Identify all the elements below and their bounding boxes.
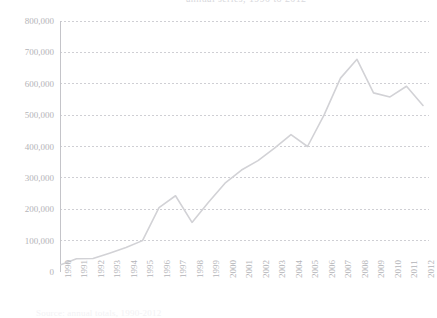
clipped-title-strip: annual series, 1990 to 2012	[0, 0, 437, 7]
y-axis-tick-label: 100,000	[0, 237, 54, 246]
y-axis-tick-label: 400,000	[0, 143, 54, 152]
x-axis-tick-label: 1992	[97, 238, 106, 278]
x-axis-tick-label: 1997	[179, 238, 188, 278]
clipped-title-text: annual series, 1990 to 2012	[186, 0, 307, 4]
x-axis-tick-label: 1991	[80, 238, 89, 278]
x-axis-tick-label: 1995	[146, 238, 155, 278]
x-axis-tick-label: 1998	[196, 238, 205, 278]
x-axis-tick-label: 2009	[377, 238, 386, 278]
x-axis-tick-label: 2007	[344, 238, 353, 278]
y-axis-tick-label: 600,000	[0, 80, 54, 89]
x-axis-tick-label: 2010	[394, 238, 403, 278]
line-chart-canvas	[60, 21, 429, 272]
x-axis-tick-label: 2005	[311, 238, 320, 278]
x-axis-tick-label: 2001	[245, 238, 254, 278]
data-line	[60, 59, 423, 265]
y-axis-tick-label: 800,000	[0, 17, 54, 26]
x-axis-tick-label: 1990	[64, 238, 73, 278]
x-axis-tick-label: 1996	[163, 238, 172, 278]
x-axis-tick-label: 2003	[278, 238, 287, 278]
x-axis-tick-label: 1993	[113, 238, 122, 278]
plot-area	[60, 21, 429, 272]
x-axis-tick-label: 2004	[295, 238, 304, 278]
y-axis-tick-label: 300,000	[0, 174, 54, 183]
x-axis-tick-label: 2011	[410, 238, 419, 278]
x-axis-tick-label: 2008	[361, 238, 370, 278]
clipped-caption-text: Source: annual totals, 1990-2012	[36, 308, 161, 318]
x-axis-tick-label: 2012	[427, 238, 436, 278]
x-axis-tick-label: 1999	[212, 238, 221, 278]
x-axis-tick-label: 2006	[328, 238, 337, 278]
x-axis-tick-label: 2002	[262, 238, 271, 278]
y-axis-tick-label: 200,000	[0, 205, 54, 214]
x-axis-tick-label: 2000	[229, 238, 238, 278]
chart-figure: annual series, 1990 to 2012 800,000700,0…	[0, 0, 437, 318]
y-axis-tick-label: 700,000	[0, 48, 54, 57]
y-axis-tick-label: 500,000	[0, 111, 54, 120]
x-axis-tick-label: 1994	[130, 238, 139, 278]
y-axis-tick-label: 0	[0, 268, 54, 277]
clipped-caption-strip: Source: annual totals, 1990-2012	[0, 307, 437, 318]
